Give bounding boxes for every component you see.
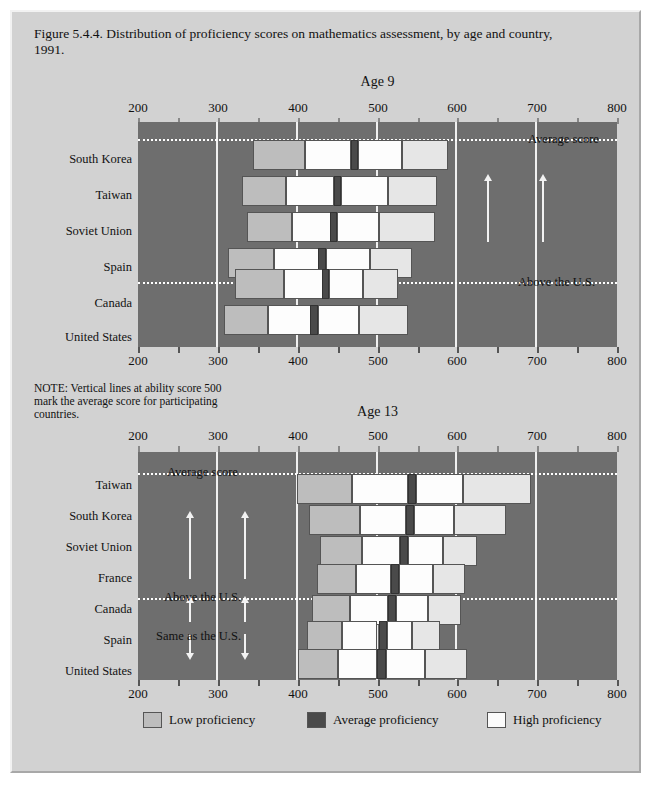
tick-label: 400 — [278, 686, 318, 702]
axis-top-age13: 200 300 400 500 600 700 800 — [138, 428, 617, 450]
legend-high-proficiency: High proficiency — [487, 712, 601, 728]
segment-high — [286, 176, 334, 206]
panel-title-age13: Age 13 — [138, 404, 617, 420]
category-label-age13: Spain — [12, 633, 132, 648]
segment-low — [253, 140, 305, 170]
arrow-up-icon — [244, 517, 246, 579]
tick-label: 600 — [437, 686, 477, 702]
segment-high — [342, 621, 377, 651]
segment-low — [320, 536, 362, 566]
segment-high — [386, 649, 425, 679]
annotation-same-as-us-age13: Same as the U.S. — [156, 629, 241, 644]
segment-upper — [379, 212, 435, 242]
tick-label: 400 — [278, 428, 318, 444]
tick-label: 300 — [198, 100, 238, 116]
segment-low — [307, 621, 342, 651]
tick-label: 300 — [198, 686, 238, 702]
tick-label: 200 — [118, 353, 158, 369]
segment-high — [408, 536, 443, 566]
segment-average — [334, 176, 341, 206]
category-label-age13: Taiwan — [12, 478, 132, 493]
tick-label: 800 — [597, 428, 637, 444]
category-label-age9: Soviet Union — [12, 224, 132, 239]
panel-title-age9: Age 9 — [138, 74, 617, 90]
legend-label-average: Average proficiency — [333, 712, 439, 728]
segment-upper — [412, 621, 440, 651]
tick-mark — [617, 118, 619, 124]
tick-label: 600 — [437, 428, 477, 444]
figure-container: Figure 5.4.4. Distribution of proficienc… — [10, 10, 641, 773]
category-label-age9: Spain — [12, 260, 132, 275]
segment-high — [352, 474, 408, 504]
tick-label: 200 — [118, 428, 158, 444]
tick-label: 600 — [437, 353, 477, 369]
segment-low — [224, 305, 268, 335]
tick-mark — [338, 347, 340, 353]
axis-top-age9: 200 300 400 500 600 700 800 — [138, 100, 617, 122]
tick-label: 400 — [278, 353, 318, 369]
segment-average — [400, 536, 408, 566]
segment-average — [406, 505, 414, 535]
segment-upper — [388, 176, 437, 206]
segment-low — [242, 176, 286, 206]
tick-label: 700 — [517, 686, 557, 702]
tick-label: 700 — [517, 100, 557, 116]
tick-label: 700 — [517, 428, 557, 444]
segment-high — [399, 564, 433, 594]
segment-low — [317, 564, 356, 594]
segment-high — [329, 269, 363, 299]
axis-bottom-age9: 200 300 400 500 600 700 800 — [138, 347, 617, 369]
segment-high — [338, 649, 377, 679]
segment-upper — [463, 474, 531, 504]
tick-mark — [497, 347, 499, 353]
legend-swatch-high-icon — [487, 712, 506, 728]
arrow-up-icon — [542, 180, 544, 242]
plot-area-age13 — [138, 452, 617, 680]
segment-upper — [454, 505, 506, 535]
segment-low — [309, 505, 360, 535]
segment-average — [391, 564, 399, 594]
segment-upper — [433, 564, 465, 594]
category-label-age9: Canada — [12, 296, 132, 311]
tick-label: 300 — [198, 353, 238, 369]
arrow-up-icon — [189, 602, 191, 622]
category-label-age13: France — [12, 571, 132, 586]
segment-high — [387, 621, 412, 651]
segment-high — [414, 505, 454, 535]
arrow-down-icon — [244, 634, 246, 654]
tick-label: 500 — [358, 100, 398, 116]
segment-average — [351, 140, 358, 170]
segment-high — [362, 536, 400, 566]
tick-label: 500 — [358, 428, 398, 444]
segment-average — [322, 269, 329, 299]
category-label-age13: Soviet Union — [12, 540, 132, 555]
annotation-average-score-age9: Average score — [528, 132, 599, 147]
tick-label: 200 — [118, 686, 158, 702]
segment-high — [284, 269, 326, 299]
legend-swatch-average-icon — [307, 712, 326, 728]
segment-high — [337, 212, 379, 242]
tick-mark — [418, 680, 420, 686]
tick-label: 400 — [278, 100, 318, 116]
tick-mark — [577, 680, 579, 686]
tick-label: 500 — [358, 686, 398, 702]
segment-average — [379, 621, 387, 651]
segment-upper — [402, 140, 448, 170]
segment-low — [235, 269, 284, 299]
legend-low-proficiency: Low proficiency — [143, 712, 255, 728]
tick-mark — [258, 347, 260, 353]
segment-high — [341, 176, 388, 206]
annotation-above-us-age13: Above the U.S. — [164, 590, 241, 605]
category-label-age9: South Korea — [12, 152, 132, 167]
segment-high — [360, 505, 406, 535]
tick-label: 800 — [597, 353, 637, 369]
plot-area-age9 — [138, 122, 617, 347]
tick-mark — [178, 680, 180, 686]
segment-high — [268, 305, 313, 335]
tick-mark — [617, 446, 619, 452]
category-label-age13: United States — [12, 664, 132, 679]
annotation-average-score-age13: Average score — [167, 465, 238, 480]
segment-high — [356, 564, 391, 594]
segment-low — [247, 212, 292, 242]
segment-upper — [359, 305, 408, 335]
